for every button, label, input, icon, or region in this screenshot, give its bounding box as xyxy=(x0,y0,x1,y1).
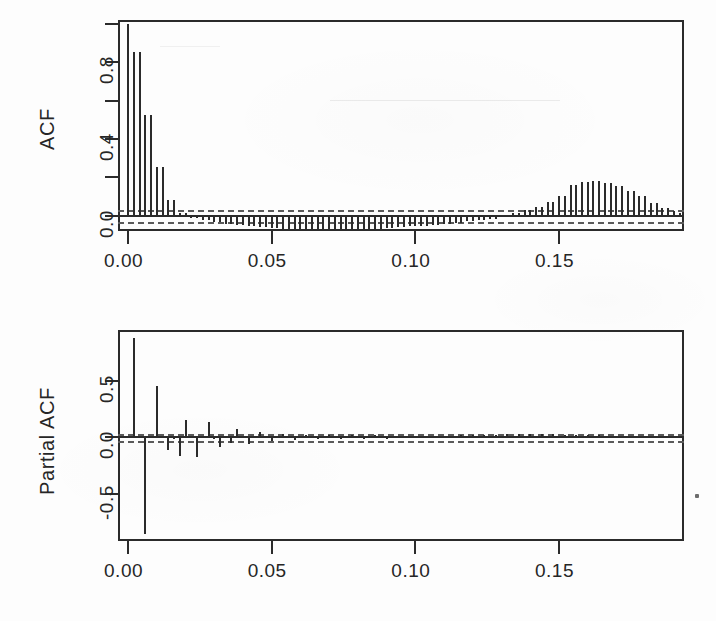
y-tick-label: 0.5 xyxy=(96,375,118,403)
pacf-panel: Partial ACF -0.50.00.5 0.000.050.100.15 xyxy=(0,0,716,621)
acf-spike xyxy=(409,436,411,438)
acf-spike xyxy=(501,436,503,437)
acf-spike xyxy=(271,437,273,441)
acf-spike xyxy=(621,436,623,437)
acf-spike xyxy=(650,436,652,437)
acf-spike xyxy=(575,435,577,437)
x-tick xyxy=(414,541,416,554)
acf-spike xyxy=(225,436,227,437)
acf-spike xyxy=(265,436,267,437)
x-tick xyxy=(271,541,273,554)
acf-spike xyxy=(179,437,181,456)
acf-spike xyxy=(564,435,566,437)
acf-spike xyxy=(541,434,543,437)
acf-spike xyxy=(317,437,319,439)
acf-spike xyxy=(253,437,255,438)
acf-spike xyxy=(363,437,365,439)
acf-spike xyxy=(133,338,135,437)
acf-spike xyxy=(638,436,640,437)
acf-spike xyxy=(679,436,681,437)
acf-spike xyxy=(322,436,324,437)
pacf-plot-area xyxy=(118,330,684,541)
acf-spike xyxy=(340,437,342,439)
acf-spike xyxy=(615,436,617,437)
acf-spike xyxy=(345,436,347,437)
confidence-band-lower xyxy=(118,441,684,443)
acf-spike xyxy=(466,436,468,437)
acf-spike xyxy=(478,436,480,437)
acf-spike xyxy=(667,436,669,437)
acf-spike xyxy=(414,436,416,437)
figure-page: ACF 0.00.40.8 0.000.050.100.15 Partial A… xyxy=(0,0,716,621)
acf-spike xyxy=(552,434,554,437)
acf-spike xyxy=(190,436,192,437)
acf-spike xyxy=(391,436,393,437)
acf-spike xyxy=(610,436,612,438)
acf-spike xyxy=(524,436,526,438)
acf-spike xyxy=(403,436,405,437)
acf-spike xyxy=(449,436,451,437)
acf-spike xyxy=(598,435,600,437)
acf-spike xyxy=(633,436,635,437)
acf-spike xyxy=(230,437,232,443)
acf-spike xyxy=(196,437,198,457)
acf-spike xyxy=(506,434,508,437)
acf-spike xyxy=(644,436,646,437)
acf-spike xyxy=(248,437,250,444)
acf-spike xyxy=(512,436,514,438)
acf-spike xyxy=(380,436,382,437)
acf-spike xyxy=(420,436,422,437)
acf-spike xyxy=(334,436,336,437)
acf-spike xyxy=(656,436,658,437)
acf-spike xyxy=(139,436,141,437)
acf-spike xyxy=(328,435,330,437)
acf-spike xyxy=(185,420,187,437)
acf-spike xyxy=(661,436,663,437)
acf-spike xyxy=(219,437,221,447)
acf-spike xyxy=(144,437,146,534)
acf-spike xyxy=(242,436,244,437)
acf-spike xyxy=(518,434,520,437)
acf-spike xyxy=(357,436,359,437)
acf-spike xyxy=(483,435,485,437)
acf-spike xyxy=(208,422,210,437)
acf-spike xyxy=(294,437,296,440)
acf-spike xyxy=(495,435,497,437)
acf-spike xyxy=(162,436,164,437)
acf-spike xyxy=(368,436,370,437)
x-tick xyxy=(558,541,560,554)
acf-spike xyxy=(673,436,675,437)
acf-spike xyxy=(547,436,549,437)
acf-spike xyxy=(167,437,169,449)
acf-spike xyxy=(282,434,284,437)
pacf-axis-title: Partial ACF xyxy=(36,387,59,495)
acf-spike xyxy=(587,435,589,437)
acf-spike xyxy=(529,434,531,437)
acf-spike xyxy=(374,435,376,437)
acf-spike xyxy=(397,436,399,438)
acf-spike xyxy=(173,437,175,438)
acf-spike xyxy=(150,436,152,437)
acf-spike xyxy=(558,436,560,437)
acf-spike xyxy=(305,435,307,437)
acf-spike xyxy=(455,436,457,437)
y-tick-label: 0.0 xyxy=(96,431,118,459)
acf-spike xyxy=(386,437,388,438)
x-tick xyxy=(127,541,129,554)
acf-spike xyxy=(276,436,278,437)
acf-spike xyxy=(432,436,434,437)
x-tick-label: 0.00 xyxy=(104,560,143,582)
acf-spike xyxy=(570,436,572,437)
acf-spike xyxy=(581,436,583,437)
x-tick-label: 0.15 xyxy=(535,560,574,582)
acf-spike xyxy=(472,435,474,437)
acf-spike xyxy=(604,436,606,437)
y-tick-label: -0.5 xyxy=(96,485,118,520)
acf-spike xyxy=(202,436,204,437)
acf-spike xyxy=(299,436,301,437)
acf-spike xyxy=(437,436,439,438)
acf-spike xyxy=(535,436,537,437)
acf-spike xyxy=(443,436,445,437)
x-tick-label: 0.05 xyxy=(248,560,287,582)
acf-spike xyxy=(426,436,428,437)
